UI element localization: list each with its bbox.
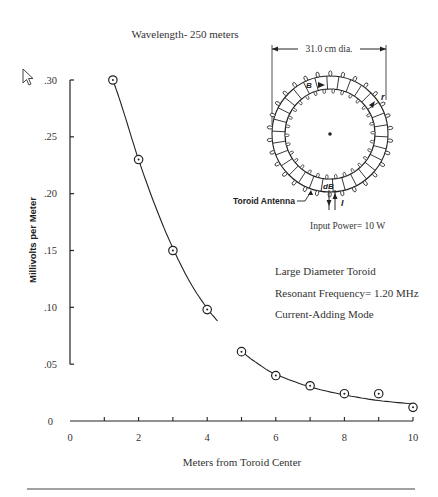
- antenna-leader-line: [297, 193, 310, 201]
- winding-inner-loop: [332, 89, 335, 94]
- chart-title: Wavelength- 250 meters: [131, 28, 238, 40]
- winding-outer-loop: [316, 72, 320, 78]
- winding-turn: [362, 93, 371, 102]
- winding-turn: [342, 177, 345, 190]
- winding-inner-loop: [307, 169, 311, 174]
- x-tick-label: 10: [408, 432, 419, 443]
- data-point: [306, 382, 314, 390]
- winding-inner-loop: [369, 122, 374, 126]
- winding-inner-loop: [348, 94, 352, 99]
- data-point-center: [112, 79, 114, 81]
- winding-outer-loop: [274, 161, 280, 166]
- symbol-r: r: [381, 92, 385, 102]
- winding-inner-loop: [357, 163, 362, 168]
- winding-inner-loop: [363, 156, 368, 161]
- data-point-center: [275, 375, 277, 377]
- dimension-arrow-right-icon: [380, 47, 386, 52]
- x-axis-label: Meters from Toroid Center: [183, 456, 302, 468]
- data-point-center: [378, 393, 380, 395]
- dimension-label: 31.0 cm dia.: [306, 44, 353, 54]
- data-point: [340, 390, 348, 398]
- winding-turn: [293, 89, 301, 99]
- winding-inner-loop: [325, 175, 328, 180]
- winding-outer-loop: [384, 151, 390, 156]
- data-point-center: [412, 406, 414, 408]
- winding-outer-loop: [387, 126, 392, 130]
- winding-turn: [281, 159, 292, 166]
- winding-outer-loop: [362, 180, 368, 186]
- winding-turn: [309, 176, 314, 188]
- winding-inner-loop: [285, 125, 290, 128]
- winding-outer-loop: [303, 186, 308, 192]
- winding-inner-loop: [340, 90, 344, 95]
- data-point: [109, 76, 117, 84]
- y-tick-label: .10: [44, 302, 57, 313]
- winding-turn: [373, 146, 386, 149]
- winding-outer-loop: [340, 190, 344, 196]
- winding-turn: [285, 98, 295, 106]
- annotation-toroid-type: Large Diameter Toroid: [275, 265, 376, 277]
- annotation-mode: Current-Adding Mode: [275, 308, 374, 320]
- winding-inner-loop: [343, 172, 347, 177]
- winding-outer-loop: [315, 190, 319, 196]
- dimension-arrow-left-icon: [272, 47, 278, 52]
- x-tick-label: 0: [67, 432, 72, 443]
- winding-inner-loop: [288, 116, 293, 120]
- winding-turn: [375, 136, 388, 137]
- winding-outer-loop: [282, 171, 288, 177]
- winding-outer-loop: [352, 76, 357, 82]
- winding-inner-loop: [293, 158, 298, 163]
- winding-outer-loop: [372, 172, 378, 178]
- winding-inner-loop: [305, 95, 310, 100]
- data-point: [134, 155, 142, 163]
- winding-turn: [278, 108, 290, 114]
- field-direction-arrow-icon: [318, 82, 325, 88]
- data-point: [169, 246, 177, 254]
- toroid-center-dot: [328, 132, 332, 136]
- winding-inner-loop: [292, 108, 297, 113]
- winding-outer-loop: [385, 113, 391, 118]
- winding-outer-loop: [270, 113, 276, 118]
- winding-inner-loop: [334, 174, 337, 179]
- x-tick-label: 8: [342, 432, 347, 443]
- winding-turn: [273, 141, 286, 143]
- data-point-center: [206, 309, 208, 311]
- annotation-resonant-frequency: Resonant Frequency= 1.20 MHz: [275, 287, 419, 299]
- winding-turn: [337, 77, 339, 90]
- winding-turn: [274, 119, 287, 122]
- data-point-center: [241, 351, 243, 353]
- toroid-antenna-label: Toroid Antenna: [233, 196, 295, 206]
- input-power-label: Input Power= 10 W: [310, 221, 385, 231]
- curve-segment-1: [113, 80, 218, 321]
- data-point: [272, 371, 280, 379]
- y-axis-label: Millivolts per Meter: [27, 197, 38, 283]
- winding-turn: [299, 172, 306, 183]
- winding-turn: [272, 131, 285, 132]
- winding-inner-loop: [371, 131, 375, 134]
- winding-outer-loop: [292, 82, 298, 88]
- winding-inner-loop: [285, 134, 289, 137]
- antenna-leader-arrow-icon: [308, 190, 313, 195]
- symbol-b: B: [306, 81, 312, 90]
- winding-turn: [372, 113, 384, 118]
- winding-inner-loop: [323, 89, 326, 94]
- curve-segment-2: [239, 348, 413, 404]
- winding-inner-loop: [300, 164, 305, 169]
- winding-inner-loop: [366, 113, 371, 117]
- data-point-center: [343, 393, 345, 395]
- winding-inner-loop: [298, 100, 303, 105]
- winding-outer-loop: [379, 162, 385, 167]
- winding-inner-loop: [289, 151, 294, 155]
- winding-outer-loop: [275, 101, 281, 106]
- toroid-diagram: 31.0 cm dia. B r dB I Toroid Antenna Inp…: [233, 42, 393, 231]
- winding-turn: [374, 125, 387, 127]
- current-arrow-up-icon: [333, 193, 338, 199]
- winding-outer-loop: [352, 186, 357, 192]
- y-tick-label: .05: [44, 359, 57, 370]
- current-arrow-down-icon: [327, 200, 332, 206]
- winding-outer-loop: [380, 101, 386, 106]
- winding-inner-loop: [361, 105, 366, 110]
- winding-outer-loop: [267, 126, 273, 130]
- winding-inner-loop: [286, 142, 291, 146]
- winding-inner-loop: [355, 99, 360, 104]
